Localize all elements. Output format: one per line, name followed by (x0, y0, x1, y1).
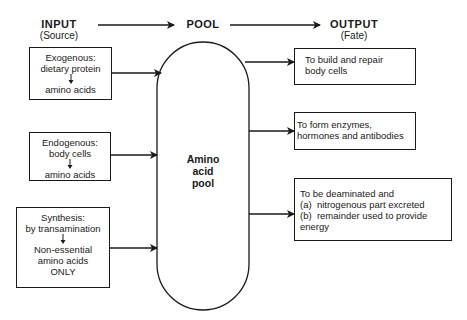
output-line: To be deaminated and (300, 188, 445, 199)
output-box-build-repair: To build and repair body cells (294, 48, 416, 85)
header-input: INPUT (Source) (24, 18, 94, 41)
output-line: energy (300, 221, 445, 232)
output-line: To build and repair (305, 54, 409, 65)
down-arrow-icon (59, 234, 67, 244)
output-line: (a) nitrogenous part excreted (300, 199, 445, 210)
input-result: amino acids (30, 169, 110, 180)
input-source: body cells (30, 148, 110, 159)
header-pool: POOL (180, 18, 226, 30)
pool-label: Amino acid pool (177, 153, 229, 189)
down-arrow-icon (67, 74, 75, 84)
output-line: body cells (305, 65, 409, 76)
input-title: Synthesis: (17, 212, 109, 223)
input-source: by transamination (17, 223, 109, 234)
input-result-line: amino acids (17, 255, 109, 266)
input-box-exogenous: Exogenous: dietary protein amino acids (29, 47, 112, 100)
header-output: OUTPUT (Fate) (322, 18, 386, 41)
output-line: (b) remainder used to provide (300, 210, 445, 221)
header-output-subtitle: (Fate) (322, 30, 386, 41)
input-result: amino acids (30, 84, 111, 95)
header-output-title: OUTPUT (330, 18, 378, 30)
pool-label-line: pool (177, 177, 229, 189)
input-title: Endogenous: (30, 137, 110, 148)
output-line: To form enzymes, (297, 119, 409, 130)
input-result-line: ONLY (17, 266, 109, 277)
input-title: Exogenous: (30, 52, 111, 63)
input-source: dietary protein (30, 63, 111, 74)
output-box-enzymes: To form enzymes, hormones and antibodies (294, 112, 416, 150)
input-box-synthesis: Synthesis: by transamination Non-essenti… (16, 207, 110, 288)
pool-label-line: acid (177, 165, 229, 177)
input-result-line: Non-essential (17, 244, 109, 255)
header-input-title: INPUT (41, 18, 77, 30)
output-box-deaminated: To be deaminated and (a) nitrogenous par… (294, 178, 452, 241)
down-arrow-icon (66, 159, 74, 169)
header-input-subtitle: (Source) (24, 30, 94, 41)
pool-label-line: Amino (177, 153, 229, 165)
output-line: hormones and antibodies (297, 130, 409, 141)
input-box-endogenous: Endogenous: body cells amino acids (29, 132, 111, 181)
